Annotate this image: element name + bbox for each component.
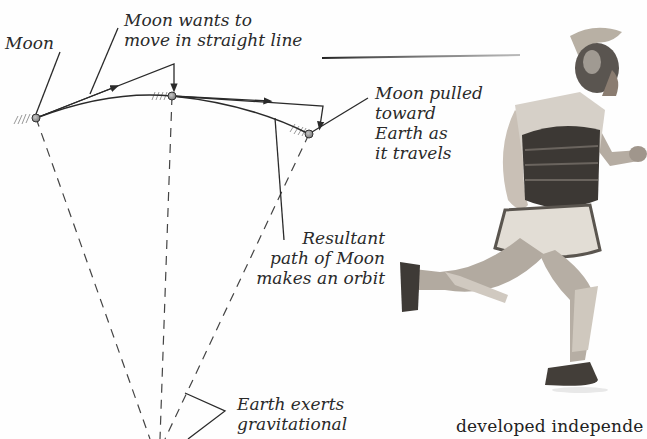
- label-moon: Moon: [5, 33, 54, 53]
- label-resultant-line1: Resultant: [302, 228, 385, 248]
- straight-line-vectors: [36, 64, 323, 126]
- textbook-page: Moon Moon wants to move in straight line…: [0, 0, 647, 439]
- label-pulled-line2: toward: [375, 103, 436, 123]
- label-resultant-line3: makes an orbit: [256, 268, 385, 288]
- orbit-path: [36, 95, 309, 134]
- orbit-diagram: [0, 0, 647, 439]
- moon-position-1: [32, 114, 40, 122]
- moon-position-2: [168, 92, 176, 100]
- label-wants-line1: Moon wants to: [124, 10, 252, 30]
- body-text-fragment: developed independe: [456, 416, 643, 436]
- label-pulled-line1: Moon pulled: [375, 83, 483, 103]
- label-resultant-line2: path of Moon: [270, 248, 385, 268]
- spear: [322, 54, 520, 59]
- label-earth-line2: gravitational: [237, 414, 347, 434]
- label-pulled-line4: it travels: [375, 143, 452, 163]
- moon-position-3: [305, 130, 313, 138]
- label-wants-line2: move in straight line: [124, 30, 302, 50]
- label-earth-line1: Earth exerts: [237, 394, 344, 414]
- label-pulled-line3: Earth as: [375, 123, 448, 143]
